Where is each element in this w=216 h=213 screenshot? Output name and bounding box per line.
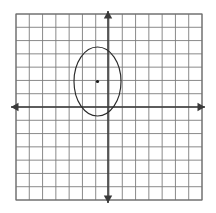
coordinate-plane-figure (0, 0, 216, 213)
ellipse-center-point (96, 80, 99, 83)
coordinate-plane-svg (0, 0, 216, 213)
